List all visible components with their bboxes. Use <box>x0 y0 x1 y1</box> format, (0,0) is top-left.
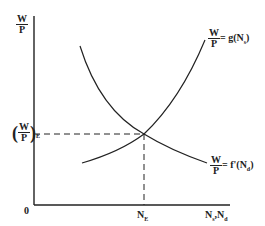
demand-curve-label: WP= f'(Nd) <box>210 155 254 176</box>
x-axis-label: Ns,Nd <box>205 210 228 224</box>
supply-curve-label: WP= g(Ns) <box>208 28 249 49</box>
equilibrium-employment-label: NE <box>137 210 148 224</box>
origin-label: 0 <box>24 206 29 216</box>
y-axis-label: WP <box>16 14 28 35</box>
equilibrium-wage-label: (WP)E <box>12 122 40 143</box>
